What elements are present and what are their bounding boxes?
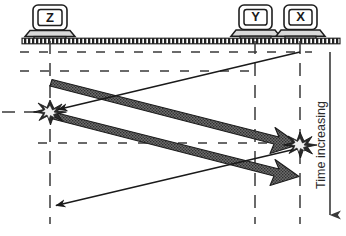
host-label-z: Z (46, 10, 54, 25)
collision-at-x (284, 132, 318, 158)
time-axis: Time increasing (314, 52, 330, 215)
diagram-canvas: Z Y X (0, 0, 346, 236)
host-label-y: Y (251, 9, 260, 24)
host-label-x: X (296, 9, 305, 24)
time-axis-label: Time increasing (314, 101, 328, 189)
shared-bus-cable (22, 38, 340, 44)
computer-icon-y: Y (231, 5, 280, 39)
signal-z-to-x-lower (51, 112, 299, 186)
computer-icon-z: Z (25, 5, 75, 40)
computer-icon-x: X (276, 5, 325, 39)
signal-x-to-z-lower (56, 148, 300, 206)
signal-x-to-z (58, 52, 300, 110)
event-dashed-lines (2, 52, 312, 143)
